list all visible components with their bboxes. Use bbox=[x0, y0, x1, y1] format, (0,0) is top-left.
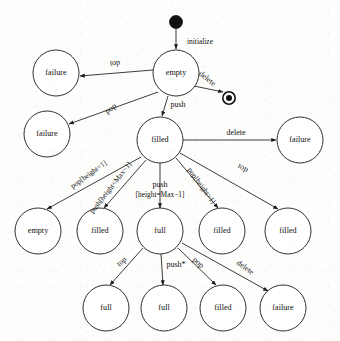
state-node-fail_pop[interactable]: failure bbox=[24, 111, 70, 157]
edge-label-e_filled_pusheq: push bbox=[152, 180, 167, 189]
initial-state-marker bbox=[170, 16, 183, 29]
state-node-empty_r3[interactable]: empty bbox=[15, 208, 61, 254]
state-label: full bbox=[100, 303, 112, 312]
state-label: filled bbox=[214, 303, 231, 312]
edge-e_empty_push bbox=[162, 96, 168, 116]
edge-e_empty_top bbox=[80, 70, 153, 76]
edge-label-e_filled_del: delete bbox=[226, 128, 246, 137]
edge-label-e_full_pop: pop bbox=[191, 255, 206, 270]
state-node-filled_r3_c[interactable]: filled bbox=[265, 208, 311, 254]
state-node-full_r4_b[interactable]: full bbox=[141, 285, 187, 331]
state-label: full bbox=[154, 226, 166, 235]
state-node-empty_root[interactable]: empty bbox=[153, 50, 199, 96]
edge-label-e_init: initialize bbox=[187, 37, 214, 46]
state-node-filled_r4[interactable]: filled bbox=[200, 285, 246, 331]
state-label: empty bbox=[166, 68, 187, 77]
edge-e_empty_del bbox=[194, 86, 223, 92]
state-node-fail_delete[interactable]: failure bbox=[277, 117, 323, 163]
edge-e_full_push bbox=[161, 254, 163, 285]
filled-dot-icon bbox=[170, 16, 183, 29]
state-label: failure bbox=[36, 129, 58, 138]
state-label: filled bbox=[151, 135, 168, 144]
statechart-diagram: emptyfailurefailurefilledfailureemptyfil… bbox=[0, 0, 340, 341]
diagram-canvas: emptyfailurefailurefilledfailureemptyfil… bbox=[0, 0, 340, 341]
edge-label-e_empty_pop: pop bbox=[103, 101, 118, 115]
state-node-full_root[interactable]: full bbox=[137, 208, 183, 254]
state-node-full_r4_a[interactable]: full bbox=[83, 285, 129, 331]
state-label: failure bbox=[45, 68, 67, 77]
final-state-marker bbox=[223, 92, 235, 104]
state-label: failure bbox=[272, 303, 294, 312]
state-label: failure bbox=[289, 135, 311, 144]
state-label: empty bbox=[28, 226, 49, 235]
state-node-filled_r3_a[interactable]: filled bbox=[77, 208, 123, 254]
edge-label-e_empty_top: top bbox=[109, 57, 120, 67]
state-node-filled_r3_b[interactable]: filled bbox=[199, 208, 245, 254]
bullseye-inner-dot-icon bbox=[226, 95, 232, 101]
state-label: filled bbox=[279, 226, 296, 235]
state-label: full bbox=[158, 303, 170, 312]
state-node-filled_root[interactable]: filled bbox=[137, 117, 183, 163]
state-node-failure_r4[interactable]: failure bbox=[260, 285, 306, 331]
edge-label-e_filled_pusheq2: [height=Max−1] bbox=[136, 190, 185, 199]
edge-label-e_filled_top: top bbox=[237, 161, 250, 174]
edge-label-e_empty_push: push bbox=[170, 100, 185, 109]
state-label: filled bbox=[91, 226, 108, 235]
edge-label-e_empty_del: delete bbox=[197, 69, 218, 88]
edge-label-e_full_push: push* bbox=[166, 260, 185, 269]
edge-e_full_top bbox=[110, 248, 143, 285]
state-label: filled bbox=[213, 226, 230, 235]
state-node-fail_top[interactable]: failure bbox=[33, 50, 79, 96]
